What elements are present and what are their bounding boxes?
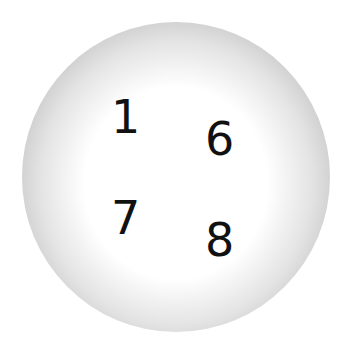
gradient-sphere <box>22 22 330 332</box>
number-6: 6 <box>205 116 234 162</box>
number-8: 8 <box>205 217 234 263</box>
number-7: 7 <box>111 195 140 241</box>
number-1: 1 <box>111 94 140 140</box>
